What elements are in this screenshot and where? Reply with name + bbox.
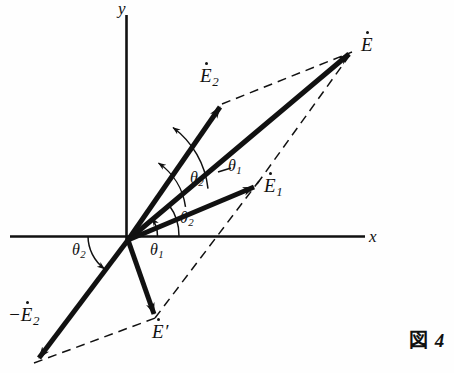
figure-diagram: x y E E2 E1 E′ −E2 θ2 θ1 θ2 θ1 θ2 図 4 — [0, 0, 454, 373]
vector-label-E-dot: E — [361, 35, 373, 58]
vector-E-dot — [128, 54, 349, 240]
angle-subscript: 1 — [158, 248, 164, 260]
y-axis-label: y — [118, 0, 126, 17]
vector-label-E2-dot: E2 — [200, 66, 219, 89]
angle-subscript: 2 — [80, 248, 86, 260]
angle-symbol: θ — [150, 241, 158, 258]
vector-label-E-prime-dot-base: E — [152, 322, 164, 341]
vector-label-E1-dot: E1 — [264, 176, 283, 199]
vector-label-E1-dot-base: E — [264, 176, 276, 195]
dashed-construction-lines — [34, 52, 352, 363]
angle-symbol: θ — [228, 157, 236, 174]
vector-group — [39, 54, 349, 358]
x-axis-label: x — [369, 228, 377, 245]
axis-group — [10, 15, 365, 241]
angle-label-theta2-E-to-E2: θ2 — [190, 170, 204, 188]
vector-label-E2-dot-sub: 2 — [212, 74, 219, 89]
figure-caption-box-char: 図 — [409, 330, 429, 351]
angle-symbol: θ — [72, 241, 80, 258]
figure-caption: 図 4 — [409, 325, 445, 352]
vector-label-minus-E2-dot-base: E — [21, 305, 33, 324]
angle-subscript: 1 — [236, 164, 242, 176]
angle-symbol: θ — [180, 209, 188, 226]
angle-subscript: 2 — [188, 216, 194, 228]
arc-theta2-negx-to-minusE2 — [88, 236, 105, 269]
vector-label-E1-dot-sub: 1 — [276, 184, 283, 199]
angle-label-theta1-below-x-axis: θ1 — [150, 242, 164, 260]
vector-label-E-prime-dot-suffix: ′ — [164, 321, 168, 342]
vector-label-minus-E2-dot-sub: 2 — [32, 313, 39, 328]
dashed-E2-to-E — [222, 52, 352, 104]
vector-diagram-canvas — [0, 0, 454, 373]
angle-label-theta1-leader: θ1 — [228, 158, 242, 176]
vector-label-E2-dot-base: E — [200, 66, 212, 85]
angle-subscript: 2 — [198, 176, 204, 188]
angle-symbol: θ — [190, 169, 198, 186]
vector-label-minus-E2-dot: −E2 — [8, 305, 39, 328]
vector-label-E-prime-dot: E′ — [152, 322, 168, 345]
angle-label-theta2-left-of-origin: θ2 — [72, 242, 86, 260]
vector-label-minus-E2-dot-prefix: − — [8, 304, 21, 325]
vector-label-E-dot-base: E — [361, 35, 373, 54]
figure-caption-number: 4 — [435, 330, 446, 351]
angle-label-theta2-above-x-axis: θ2 — [180, 210, 194, 228]
